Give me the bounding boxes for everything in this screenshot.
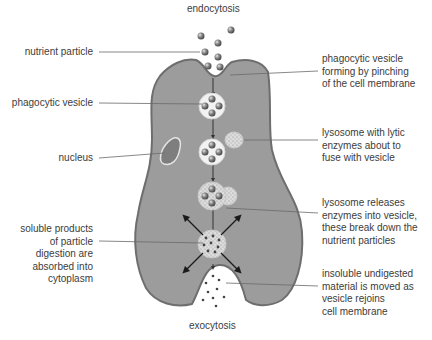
phagocytic-vesicle — [199, 93, 225, 119]
label-nucleus: nucleus — [59, 152, 93, 165]
label-lysosome-lytic: lysosome with lytic enzymes about to fus… — [322, 127, 405, 165]
label-soluble-products: soluble products of particle digestion a… — [20, 223, 93, 286]
exocytosed-material — [202, 275, 226, 308]
label-phagocytic-vesicle: phagocytic vesicle — [12, 97, 93, 110]
exocytosis-label: exocytosis — [189, 320, 236, 333]
lysosome — [225, 132, 243, 148]
label-vesicle-forming: phagocytic vesicle forming by pinching o… — [322, 53, 415, 91]
label-nutrient-particle: nutrient particle — [25, 46, 93, 59]
label-insoluble-material: insoluble undigested material is moved a… — [322, 268, 414, 318]
label-lysosome-releases: lysosome releases enzymes into vesicle, … — [322, 197, 418, 247]
vesicle-before-fusion — [199, 139, 225, 165]
endocytosis-label: endocytosis — [187, 3, 240, 16]
